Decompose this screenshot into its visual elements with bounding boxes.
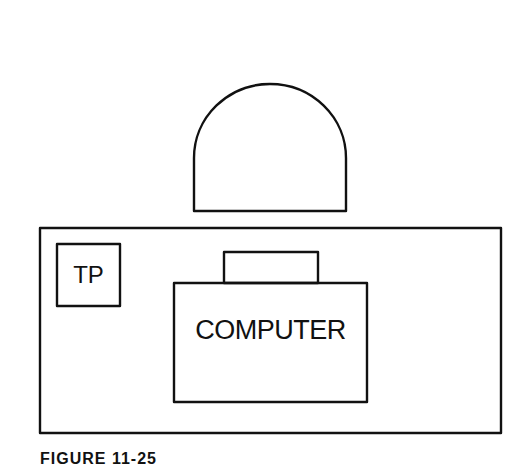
figure-caption: FIGURE 11-25 <box>40 451 157 467</box>
dome-shape <box>194 84 346 211</box>
tp-label: TP <box>57 243 120 306</box>
computer-label: COMPUTER <box>174 300 367 360</box>
computer-tab-box <box>224 252 318 283</box>
